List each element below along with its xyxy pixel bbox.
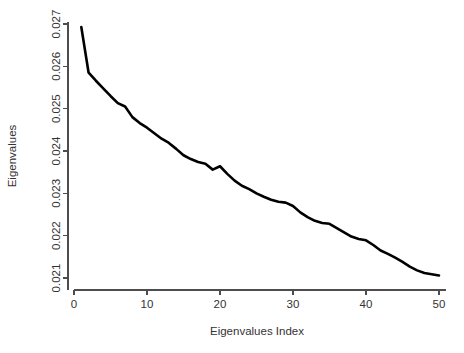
x-axis-group: 01020304050 [71, 290, 446, 310]
y-axis-title: Eigenvalues [6, 124, 18, 187]
chart-container: 0.0210.0220.0230.0240.0250.0260.027 0102… [0, 0, 464, 353]
y-tick-label: 0.026 [50, 52, 62, 81]
y-tick-label: 0.023 [50, 179, 62, 208]
data-series-group [81, 27, 439, 276]
x-tick-label: 50 [433, 298, 446, 310]
y-tick-label: 0.022 [50, 221, 62, 250]
y-tick-label: 0.021 [50, 264, 62, 293]
x-axis-title: Eigenvalues Index [210, 325, 304, 337]
x-tick-label: 30 [287, 298, 300, 310]
x-tick-label: 10 [141, 298, 154, 310]
x-tick-label: 40 [360, 298, 373, 310]
x-tick-label: 0 [71, 298, 77, 310]
y-tick-label: 0.024 [50, 136, 62, 165]
eigenvalues-line [81, 27, 439, 276]
x-tick-label: 20 [214, 298, 227, 310]
y-tick-label: 0.027 [50, 10, 62, 39]
y-tick-label: 0.025 [50, 94, 62, 123]
y-axis-group: 0.0210.0220.0230.0240.0250.0260.027 [50, 10, 68, 293]
scree-plot: 0.0210.0220.0230.0240.0250.0260.027 0102… [0, 0, 464, 353]
